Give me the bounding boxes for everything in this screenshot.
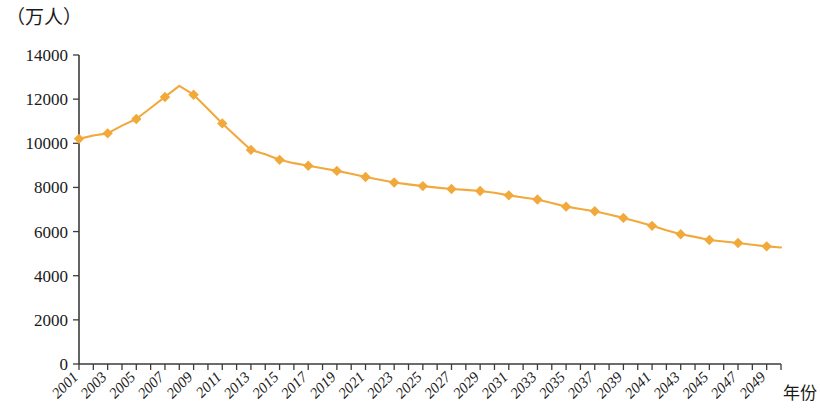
x-tick-label: 2013: [221, 369, 254, 402]
population-series-markers: [74, 90, 772, 252]
data-point-marker: [704, 235, 714, 245]
y-tick-label: 4000: [34, 267, 68, 286]
x-tick-label: 2027: [421, 368, 455, 402]
y-tick-label: 2000: [34, 311, 68, 330]
y-tick-label: 12000: [26, 90, 69, 109]
x-tick-label: 2015: [249, 368, 282, 401]
data-point-marker: [676, 229, 686, 239]
data-point-marker: [561, 201, 571, 211]
data-point-marker: [590, 206, 600, 216]
x-tick-label: 2001: [49, 369, 82, 402]
x-tick-label: 2035: [536, 368, 569, 401]
data-point-marker: [303, 161, 313, 171]
x-tick-label: 2025: [392, 368, 425, 401]
data-point-marker: [733, 238, 743, 248]
data-point-marker: [504, 190, 514, 200]
x-tick-label: 2047: [708, 368, 742, 402]
data-point-marker: [102, 128, 112, 138]
data-point-marker: [389, 177, 399, 187]
data-point-marker: [618, 213, 628, 223]
population-series-line: [79, 86, 781, 248]
x-tick-label: 2041: [622, 369, 655, 402]
data-point-marker: [332, 166, 342, 176]
y-tick-label: 6000: [34, 223, 68, 242]
y-tick-label: 14000: [26, 46, 69, 65]
x-tick-label: 2023: [364, 369, 397, 402]
y-axis-ticks: 02000400060008000100001200014000: [26, 46, 80, 374]
line-chart: （万人） 年份 02000400060008000100001200014000…: [0, 0, 820, 420]
x-tick-label: 2019: [306, 368, 339, 401]
x-tick-label: 2003: [77, 369, 110, 402]
x-tick-label: 2039: [593, 368, 626, 401]
data-point-marker: [360, 172, 370, 182]
chart-axes: [79, 55, 781, 364]
x-tick-label: 2007: [135, 368, 169, 402]
y-tick-label: 8000: [34, 178, 68, 197]
data-point-marker: [647, 221, 657, 231]
x-tick-label: 2005: [106, 368, 139, 401]
x-axis-ticks: 2001200320052007200920112013201520172019…: [49, 364, 781, 401]
x-tick-label: 2017: [278, 368, 312, 402]
data-point-marker: [532, 194, 542, 204]
x-tick-label: 2049: [736, 368, 769, 401]
x-tick-label: 2045: [679, 368, 712, 401]
y-tick-label: 10000: [26, 134, 69, 153]
data-point-marker: [475, 186, 485, 196]
chart-plot-area: 02000400060008000100001200014000 2001200…: [0, 0, 820, 420]
data-point-marker: [418, 181, 428, 191]
data-point-marker: [446, 184, 456, 194]
data-point-marker: [761, 241, 771, 251]
x-tick-label: 2043: [650, 369, 683, 402]
x-tick-label: 2011: [193, 369, 225, 401]
x-tick-label: 2037: [564, 368, 598, 402]
data-point-marker: [74, 134, 84, 144]
x-tick-label: 2031: [478, 369, 511, 402]
data-point-marker: [274, 155, 284, 165]
x-tick-label: 2021: [335, 369, 368, 402]
x-tick-label: 2009: [163, 368, 196, 401]
x-tick-label: 2033: [507, 369, 540, 402]
x-tick-label: 2029: [450, 368, 483, 401]
